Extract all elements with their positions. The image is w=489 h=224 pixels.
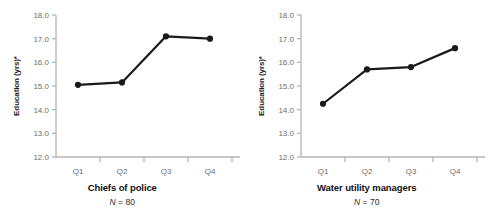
sample-size-value: = 80 [116, 197, 135, 207]
data-point-marker[interactable] [363, 66, 369, 72]
y-axis-tick-label: 16.0 [278, 58, 294, 67]
data-series-line [323, 48, 455, 104]
data-point-marker[interactable] [119, 79, 125, 85]
data-point-marker[interactable] [451, 45, 457, 51]
y-axis-tick-label: 17.0 [278, 35, 294, 44]
y-axis-tick-label: 13.0 [278, 129, 294, 138]
panel-title: Chiefs of police [0, 182, 245, 193]
x-axis-tick-label: Q3 [405, 167, 416, 176]
x-axis-tick-label: Q1 [73, 167, 84, 176]
x-axis-tick-label: Q3 [161, 167, 172, 176]
y-axis-tick-label: 12.0 [33, 153, 49, 162]
y-axis-tick-label: 14.0 [278, 106, 294, 115]
data-series-line [78, 36, 210, 85]
data-point-marker[interactable] [407, 64, 413, 70]
data-point-marker[interactable] [75, 82, 81, 88]
data-point-marker[interactable] [207, 36, 213, 42]
panel-sample-size: N = 70 [245, 197, 489, 207]
y-axis-tick-label: 12.0 [278, 153, 294, 162]
plot-area-water-utility-managers: 18.017.016.015.014.013.012.0Q1Q2Q3Q4 [245, 0, 489, 180]
y-axis-tick-label: 13.0 [33, 129, 49, 138]
y-axis-tick-label: 15.0 [278, 82, 294, 91]
y-axis-tick-label: 15.0 [33, 82, 49, 91]
data-point-marker[interactable] [163, 33, 169, 39]
y-axis-tick-label: 16.0 [33, 58, 49, 67]
y-axis-tick-label: 14.0 [33, 106, 49, 115]
sample-size-value: = 70 [360, 197, 379, 207]
figure-two-line-charts: Education (yrs)* 18.017.016.015.014.013.… [0, 0, 489, 224]
x-axis-tick-label: Q4 [205, 167, 216, 176]
x-axis-tick-label: Q2 [117, 167, 128, 176]
chart-panel-water-utility-managers: Education (yrs)* 18.017.016.015.014.013.… [245, 0, 489, 224]
y-axis-tick-label: 17.0 [33, 35, 49, 44]
chart-panel-chiefs-of-police: Education (yrs)* 18.017.016.015.014.013.… [0, 0, 245, 224]
x-axis-tick-label: Q4 [449, 167, 460, 176]
y-axis-tick-label: 18.0 [33, 11, 49, 20]
plot-area-chiefs-of-police: 18.017.016.015.014.013.012.0Q1Q2Q3Q4 [0, 0, 244, 180]
y-axis-tick-label: 18.0 [278, 11, 294, 20]
panel-sample-size: N = 80 [0, 197, 245, 207]
x-axis-tick-label: Q2 [361, 167, 372, 176]
data-point-marker[interactable] [319, 101, 325, 107]
x-axis-tick-label: Q1 [317, 167, 328, 176]
panel-title: Water utility managers [245, 182, 489, 193]
